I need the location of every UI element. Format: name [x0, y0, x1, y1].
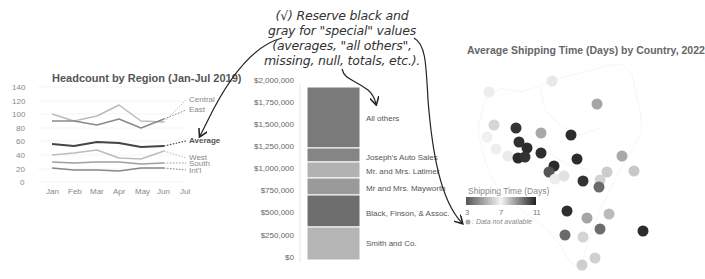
map-dots	[482, 76, 649, 271]
segment-josephs-auto-sales	[307, 148, 360, 162]
series-average	[52, 142, 164, 147]
series-east	[52, 119, 164, 128]
arrow-to-legend-na	[414, 38, 462, 223]
map-outline	[478, 64, 642, 268]
segment-black-finson	[307, 195, 360, 227]
series-intl	[52, 168, 164, 171]
line-chart-series	[52, 100, 186, 171]
legend-na-swatch	[466, 220, 471, 225]
arrow-to-average	[200, 38, 282, 136]
segment-all-others	[307, 87, 360, 148]
legend-gradient-bar	[466, 197, 536, 205]
series-west	[52, 150, 164, 159]
series-south	[52, 162, 164, 164]
series-central	[52, 105, 164, 122]
segment-smith-and-co	[307, 227, 360, 260]
stacked-bar	[307, 87, 360, 260]
segment-latimer	[307, 162, 360, 178]
segment-mayworth	[307, 178, 360, 195]
